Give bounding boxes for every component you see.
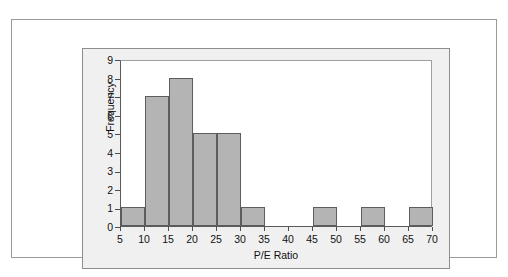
x-axis-tick-label: 60 [372, 233, 396, 245]
x-axis-tick-label: 35 [252, 233, 276, 245]
histogram-bar [361, 207, 385, 226]
x-axis-tick-label: 30 [228, 233, 252, 245]
x-axis-tick: 20 [180, 227, 204, 245]
x-axis-tick-mark [120, 227, 121, 231]
x-axis-tick-mark [312, 227, 313, 231]
chart-panel: 0123456789 Frequency 5101520253035404550… [82, 48, 450, 269]
x-axis-tick: 40 [276, 227, 300, 245]
x-axis-tick: 45 [300, 227, 324, 245]
x-axis-tick-label: 10 [132, 233, 156, 245]
histogram-bar [121, 207, 145, 226]
plot-area [120, 60, 432, 227]
x-axis-tick-mark [216, 227, 217, 231]
x-axis-tick-label: 50 [324, 233, 348, 245]
x-axis-tick: 5 [108, 227, 132, 245]
y-axis-tick: 1 [104, 202, 120, 214]
x-axis-tick: 50 [324, 227, 348, 245]
x-axis-tick-label: 65 [396, 233, 420, 245]
x-axis-tick: 15 [156, 227, 180, 245]
x-axis-tick-label: 40 [276, 233, 300, 245]
x-axis-tick: 30 [228, 227, 252, 245]
x-axis-tick-mark [168, 227, 169, 231]
x-axis-tick: 25 [204, 227, 228, 245]
x-axis-tick-mark [432, 227, 433, 231]
x-axis-tick-mark [336, 227, 337, 231]
y-axis-tick-label: 3 [104, 165, 113, 177]
figure-frame: 0123456789 Frequency 5101520253035404550… [11, 19, 497, 258]
x-axis-tick-mark [192, 227, 193, 231]
x-axis-tick-mark [240, 227, 241, 231]
x-axis-tick: 65 [396, 227, 420, 245]
histogram-bar [193, 133, 217, 226]
x-axis-tick-mark [408, 227, 409, 231]
histogram-bar [313, 207, 337, 226]
histogram-bar [241, 207, 265, 226]
histogram-bar [169, 78, 193, 226]
x-axis-tick-mark [264, 227, 265, 231]
y-axis-tick: 2 [104, 184, 120, 196]
x-axis-tick-mark [360, 227, 361, 231]
y-axis-title: Frequency [104, 62, 116, 152]
y-axis-tick-label: 1 [104, 202, 113, 214]
x-axis-tick-label: 45 [300, 233, 324, 245]
x-axis-tick-label: 55 [348, 233, 372, 245]
histogram-bar [217, 133, 241, 226]
x-axis-tick: 10 [132, 227, 156, 245]
x-axis: 510152025303540455055606570 [120, 227, 432, 247]
histogram-bar [409, 207, 433, 226]
x-axis-title: P/E Ratio [120, 249, 432, 261]
x-axis-tick-label: 20 [180, 233, 204, 245]
x-axis-tick-label: 25 [204, 233, 228, 245]
x-axis-tick: 55 [348, 227, 372, 245]
x-axis-tick-label: 5 [108, 233, 132, 245]
y-axis-tick-label: 2 [104, 184, 113, 196]
x-axis-tick-label: 70 [420, 233, 444, 245]
histogram-bar [145, 96, 169, 226]
histogram-bars [121, 61, 431, 226]
x-axis-tick: 60 [372, 227, 396, 245]
x-axis-tick: 70 [420, 227, 444, 245]
x-axis-tick-mark [144, 227, 145, 231]
x-axis-tick: 35 [252, 227, 276, 245]
y-axis-tick: 3 [104, 165, 120, 177]
x-axis-tick-mark [288, 227, 289, 231]
x-axis-tick-label: 15 [156, 233, 180, 245]
x-axis-tick-mark [384, 227, 385, 231]
